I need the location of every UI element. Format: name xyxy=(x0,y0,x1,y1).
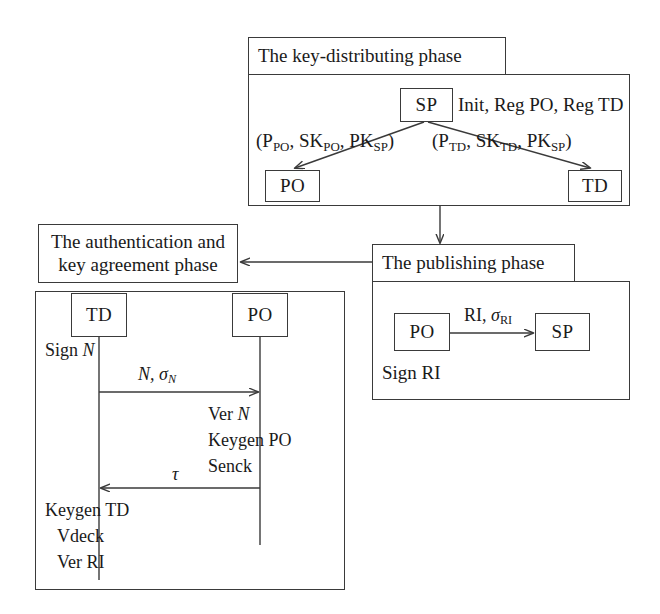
key-phase-left-credential-label: (PPO, SKPO, PKSP) xyxy=(256,130,394,154)
auth-td-action-3: Ver RI xyxy=(57,552,105,572)
auth-td-action-2: Vdeck xyxy=(57,526,104,546)
key-phase-sp-node: SP xyxy=(400,88,453,122)
authentication-phase-title-line2: key agreement phase xyxy=(58,254,217,276)
publishing-footer-label: Sign RI xyxy=(382,362,441,383)
auth-td-action-1: Keygen TD xyxy=(45,500,129,520)
auth-po-node: PO xyxy=(232,293,288,337)
key-phase-po-node: PO xyxy=(265,170,320,202)
authentication-phase-title-box: The authentication and key agreement pha… xyxy=(38,224,238,283)
auth-po-action-1: Ver N xyxy=(208,404,250,424)
auth-td-node: TD xyxy=(71,293,127,337)
key-phase-init-label: Init, Reg PO, Reg TD xyxy=(458,94,623,115)
key-phase-td-label: TD xyxy=(582,175,608,197)
sigma-symbol: σ xyxy=(159,364,168,384)
key-distributing-phase-title-box: The key-distributing phase xyxy=(248,37,506,75)
auth-po-action-3: Senck xyxy=(208,456,252,476)
publishing-message-label: RI, σRI xyxy=(464,305,512,328)
key-phase-po-label: PO xyxy=(280,175,305,197)
auth-po-label: PO xyxy=(247,304,272,326)
auth-td-sign-label: Sign N xyxy=(45,340,95,360)
publishing-phase-title: The publishing phase xyxy=(382,252,545,274)
key-phase-sp-label: SP xyxy=(416,94,438,116)
sigma-symbol: σ xyxy=(491,305,500,325)
auth-message-2-label: τ xyxy=(172,464,178,484)
publishing-phase-title-box: The publishing phase xyxy=(372,244,575,282)
authentication-phase-title-line1: The authentication and xyxy=(51,231,225,253)
key-phase-right-credential-label: (PTD, SKTD, PKSP) xyxy=(432,130,572,154)
auth-td-label: TD xyxy=(86,304,112,326)
diagram-canvas: The key-distributing phase SP Init, Reg … xyxy=(0,0,660,614)
publishing-po-label: PO xyxy=(409,321,434,343)
key-distributing-phase-title: The key-distributing phase xyxy=(258,45,462,67)
publishing-sp-label: SP xyxy=(552,321,574,343)
publishing-sp-node: SP xyxy=(535,313,590,351)
publishing-po-node: PO xyxy=(394,313,450,351)
key-phase-td-node: TD xyxy=(568,170,622,202)
auth-po-action-2: Keygen PO xyxy=(208,430,292,450)
auth-message-1-label: N, σN xyxy=(138,364,176,387)
